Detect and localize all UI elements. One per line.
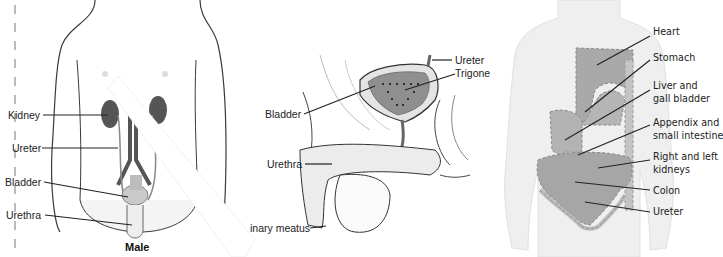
label-ureter-torso: Ureter	[653, 206, 683, 218]
label-heart: Heart	[653, 26, 680, 38]
label-liver-line2: gall bladder	[653, 93, 710, 105]
label-appendix-line1: Appendix and	[653, 117, 719, 129]
label-kidneys-line1: Right and left	[653, 151, 718, 163]
label-appendix-line2: small intestine	[653, 130, 723, 142]
panel-referred-pain: Heart Stomach Liver and gall bladder App…	[470, 0, 719, 257]
label-stomach: Stomach	[653, 52, 695, 64]
label-colon: Colon	[653, 185, 680, 197]
label-liver-line1: Liver and	[653, 80, 698, 92]
label-kidneys-line2: kidneys	[653, 164, 690, 176]
